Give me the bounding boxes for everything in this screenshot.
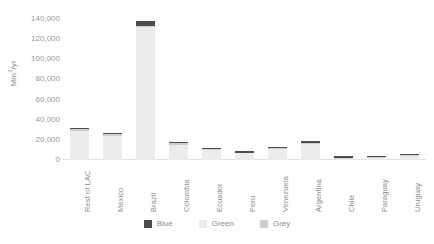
bar-segment-green <box>169 145 188 160</box>
chart-legend: BlueGreenGrey <box>0 220 434 228</box>
x-axis-label: Argentina <box>314 179 323 212</box>
legend-label: Grey <box>273 220 290 228</box>
legend-swatch-icon <box>260 220 268 228</box>
legend-item[interactable]: Blue <box>144 220 173 228</box>
bar-chart: Mm3/yr 140,000120,000100,00080,00060,000… <box>0 0 434 244</box>
bar-stack <box>136 21 155 160</box>
x-axis-label: Peru <box>248 196 257 212</box>
bar-group[interactable] <box>136 19 155 160</box>
bar-segment-green <box>103 136 122 160</box>
x-axis-label: Venezuela <box>281 176 290 212</box>
legend-label: Green <box>212 220 234 228</box>
bar-segment-green <box>202 150 221 160</box>
bar-group[interactable] <box>169 19 188 160</box>
bar-stack <box>103 133 122 160</box>
legend-label: Blue <box>157 220 173 228</box>
legend-swatch-icon <box>144 220 152 228</box>
x-axis-label: Brazil <box>149 193 158 212</box>
legend-item[interactable]: Green <box>199 220 234 228</box>
bar-group[interactable] <box>367 19 386 160</box>
bar-group[interactable] <box>103 19 122 160</box>
y-axis-tick-label: 120,000 <box>8 35 60 43</box>
x-axis-label: Uruguay <box>413 183 422 212</box>
plot-area <box>63 19 426 160</box>
bar-stack <box>169 142 188 160</box>
bar-group[interactable] <box>301 19 320 160</box>
bar-stack <box>235 151 254 160</box>
bar-segment-green <box>268 149 287 160</box>
bar-segment-green <box>136 27 155 160</box>
y-axis-tick-label: 140,000 <box>8 15 60 23</box>
y-axis-tick-label: 20,000 <box>8 136 60 144</box>
legend-swatch-icon <box>199 220 207 228</box>
x-axis-label: Chile <box>347 194 356 212</box>
bar-segment-green <box>301 144 320 160</box>
y-axis-tick-label: 80,000 <box>8 75 60 83</box>
y-axis-tick-label: 60,000 <box>8 96 60 104</box>
x-axis-label: Ecuador <box>215 183 224 212</box>
x-axis-label: Mexico <box>116 188 125 212</box>
x-axis-label: Rest of LAC <box>83 170 92 212</box>
bar-stack <box>301 141 320 160</box>
bar-group[interactable] <box>268 19 287 160</box>
x-axis-label: Paraguay <box>380 179 389 212</box>
legend-item[interactable]: Grey <box>260 220 290 228</box>
y-axis-tick-label: 40,000 <box>8 116 60 124</box>
bar-stack <box>202 148 221 160</box>
bar-stack <box>268 147 287 160</box>
bar-group[interactable] <box>235 19 254 160</box>
y-axis-ticks: 140,000120,000100,00080,00060,00040,0002… <box>8 0 60 244</box>
bar-group[interactable] <box>400 19 419 160</box>
bar-group[interactable] <box>70 19 89 160</box>
x-axis-label: Colombia <box>182 180 191 212</box>
y-axis-tick-label: 0 <box>8 156 60 164</box>
bar-segment-green <box>70 131 89 160</box>
x-axis-labels: Rest of LACMexicoBrazilColombiaEcuadorPe… <box>63 160 426 216</box>
y-axis-tick-label: 100,000 <box>8 55 60 63</box>
bar-group[interactable] <box>202 19 221 160</box>
bar-stack <box>70 128 89 160</box>
bar-group[interactable] <box>334 19 353 160</box>
